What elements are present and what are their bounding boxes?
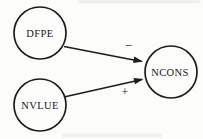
edge-sign-plus-label: + bbox=[122, 85, 129, 99]
node-ncons-label: NCONS bbox=[151, 67, 189, 78]
edge-nvlue-to-ncons bbox=[64, 78, 144, 97]
edge-nvlue-to-ncons-line bbox=[64, 80, 142, 98]
arrowhead-icon bbox=[134, 78, 144, 84]
node-dfpe-label: DFPE bbox=[26, 28, 53, 39]
edge-sign-minus-label: − bbox=[125, 38, 132, 53]
causal-diagram-canvas: DFPE NVLUE NCONS − + bbox=[0, 0, 203, 139]
node-nvlue-label: NVLUE bbox=[21, 100, 59, 111]
arrowhead-icon bbox=[133, 57, 143, 64]
